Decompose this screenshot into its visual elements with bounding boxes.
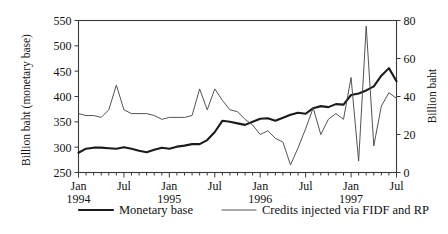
x-tick-label: Jan — [71, 179, 87, 193]
left-axis-ticks: 250300350400450500550 — [54, 14, 79, 180]
left-tick-label: 500 — [54, 39, 72, 53]
right-tick-label: 60 — [404, 52, 416, 66]
left-tick-label: 350 — [54, 115, 72, 129]
right-tick-label: 0 — [404, 166, 410, 180]
x-tick-label: Jul — [208, 179, 223, 193]
left-tick-label: 400 — [54, 90, 72, 104]
x-tick-label: Jan — [161, 179, 177, 193]
x-axis-ticks: Jan1994JulJan1995JulJan1996JulJan1997Jul — [67, 173, 405, 206]
x-tick-label: Jul — [389, 179, 404, 193]
legend-label: Credits injected via FIDF and RP — [262, 203, 429, 217]
right-tick-label: 20 — [404, 128, 416, 142]
x-tick-label: Jul — [117, 179, 132, 193]
x-tick-year-label: 1994 — [67, 192, 91, 206]
line-chart: Billion baht (monetary base) Billion bah… — [0, 0, 448, 234]
right-axis-ticks: 020406080 — [397, 14, 416, 180]
left-tick-label: 450 — [54, 65, 72, 79]
left-axis-title: Billion baht (monetary base) — [20, 34, 33, 166]
left-axis-title-text: Billion baht (monetary base) — [20, 34, 33, 166]
data-series-group — [79, 26, 397, 165]
chart-figure: Billion baht (monetary base) Billion bah… — [0, 0, 448, 234]
x-tick-label: Jul — [299, 179, 314, 193]
right-axis-title: Billion baht — [426, 68, 438, 123]
left-tick-label: 550 — [54, 14, 72, 28]
legend-label: Monetary base — [119, 203, 193, 217]
left-tick-label: 300 — [54, 141, 72, 155]
x-tick-label: Jan — [343, 179, 359, 193]
right-tick-label: 40 — [404, 90, 416, 104]
right-axis-title-text: Billion baht — [426, 68, 438, 123]
series-line-thin — [79, 26, 397, 165]
left-tick-label: 250 — [54, 166, 72, 180]
right-tick-label: 80 — [404, 14, 416, 28]
x-tick-label: Jan — [252, 179, 268, 193]
